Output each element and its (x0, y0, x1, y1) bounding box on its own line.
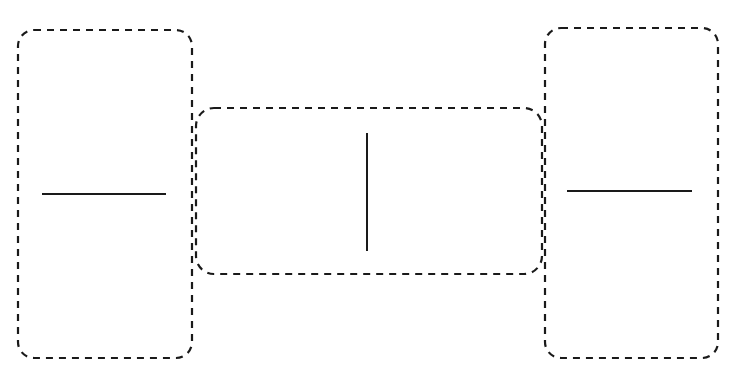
right-box (545, 28, 718, 358)
middle-box (196, 108, 542, 274)
diagram-canvas (0, 0, 737, 380)
